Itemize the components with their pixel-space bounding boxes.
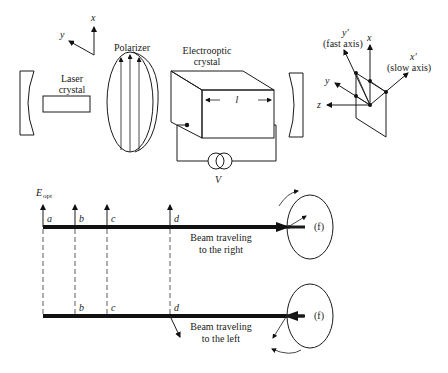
x-prime-label: x' [409,51,417,62]
e-opt-label: E [35,187,42,198]
electrooptic-crystal: Electrooptic crystal l V [171,45,276,185]
slow-axis-label: (slow axis) [387,62,431,74]
z-label: z [316,99,321,110]
x-label: x [366,32,372,43]
y-prime-label: y' [341,27,349,38]
right-beam-label-line2: to the right [199,244,243,255]
input-coordinate-axes: x y [59,12,96,55]
length-label: l [236,94,239,105]
point-b-lower: b [79,302,84,313]
laser-crystal-label-line1: Laser [61,73,84,84]
voltage-label: V [215,174,223,185]
point-b: b [79,213,84,224]
y-label: y [324,75,330,86]
dashed-guides [43,229,170,314]
voltage-source: V [208,153,232,185]
point-d-lower: d [174,302,180,313]
left-beam-label-line2: to the left [202,333,241,344]
point-c: c [111,213,116,224]
fast-axis-label: (fast axis) [323,38,363,50]
laser-crystal: Laser crystal [43,73,90,112]
x-axis-label: x [90,12,96,23]
crystal-axes-diagram: y' (fast axis) x x' (slow axis) y z [316,27,431,137]
point-a: a [47,213,52,224]
y-axis-arrow [69,41,94,55]
eo-crystal-label-line2: crystal [194,56,221,67]
e-opt-subscript: opt [43,192,52,200]
left-mirror [20,71,34,135]
y-axis-label: y [59,29,65,40]
laser-crystal-label-line2: crystal [59,84,86,95]
left-beam-label-line1: Beam traveling [190,321,251,332]
point-d: d [174,213,180,224]
polarizer: Polarizer [107,42,158,152]
left-traveling-beam: b c d Beam traveling to the left (f) [43,284,333,353]
eo-crystal-label-line1: Electrooptic [183,45,232,56]
field-label: E opt [35,187,52,200]
laser-crystal-rect [43,96,90,112]
polarizer-label: Polarizer [114,42,151,53]
right-mirror [289,73,303,137]
left-beam-end-label: (f) [314,310,324,322]
right-traveling-beam: a b c d Beam traveling to the right (f) [43,191,333,259]
right-beam-end-label: (f) [314,221,324,233]
right-beam-label-line1: Beam traveling [190,232,251,243]
point-c-lower: c [111,302,116,313]
